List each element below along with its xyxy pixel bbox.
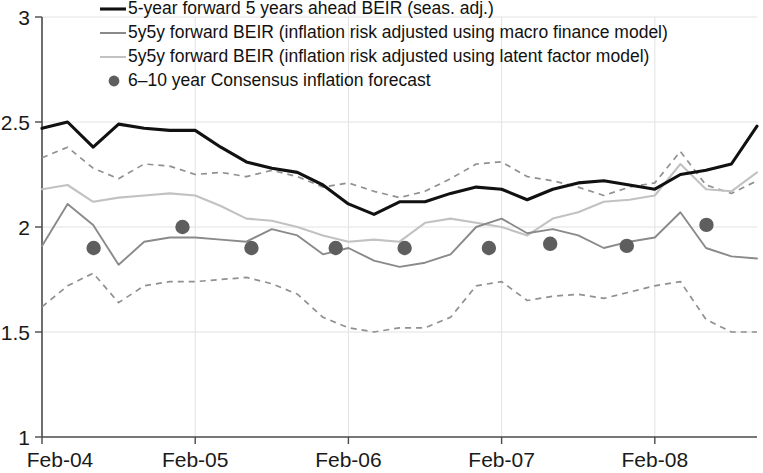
consensus-forecast-dot — [328, 241, 342, 255]
y-tick-label: 1 — [18, 426, 30, 449]
legend-label: 5-year forward 5 years ahead BEIR (seas.… — [128, 0, 494, 18]
consensus-forecast-dot — [86, 241, 100, 255]
x-tick-label: Feb-05 — [162, 448, 229, 471]
legend-label: 5y5y forward BEIR (inflation risk adjust… — [128, 46, 649, 66]
consensus-forecast-dot — [244, 241, 258, 255]
chart-container: 11.522.53 Feb-04Feb-05Feb-06Feb-07Feb-08… — [0, 0, 763, 473]
consensus-forecast-points — [86, 218, 713, 256]
consensus-forecast-dot — [543, 237, 557, 251]
legend-label: 6–10 year Consensus inflation forecast — [128, 70, 431, 90]
y-tick-marks — [35, 17, 42, 437]
x-axis-tick-labels: Feb-04Feb-05Feb-06Feb-07Feb-08 — [27, 448, 688, 471]
y-tick-label: 1.5 — [1, 321, 30, 344]
consensus-forecast-dot — [397, 241, 411, 255]
series-line-0 — [42, 122, 757, 214]
consensus-forecast-dot — [482, 241, 496, 255]
x-tick-marks — [42, 437, 655, 444]
x-tick-label: Feb-07 — [468, 448, 535, 471]
beir-line-chart: 11.522.53 Feb-04Feb-05Feb-06Feb-07Feb-08… — [0, 0, 763, 473]
legend-label: 5y5y forward BEIR (inflation risk adjust… — [128, 22, 668, 42]
y-tick-label: 2.5 — [1, 111, 30, 134]
chart-legend: 5-year forward 5 years ahead BEIR (seas.… — [100, 0, 668, 90]
y-axis-tick-labels: 11.522.53 — [1, 6, 30, 449]
series-line-1 — [42, 204, 757, 267]
x-tick-label: Feb-08 — [622, 448, 689, 471]
series-line-4 — [42, 273, 757, 332]
consensus-forecast-dot — [175, 220, 189, 234]
legend-marker-dot — [109, 76, 120, 87]
x-tick-label: Feb-04 — [27, 448, 94, 471]
x-tick-label: Feb-06 — [315, 448, 382, 471]
series-line-3 — [42, 147, 757, 197]
consensus-forecast-dot — [620, 239, 634, 253]
consensus-forecast-dot — [699, 218, 713, 232]
y-tick-label: 3 — [18, 6, 30, 29]
y-tick-label: 2 — [18, 216, 30, 239]
